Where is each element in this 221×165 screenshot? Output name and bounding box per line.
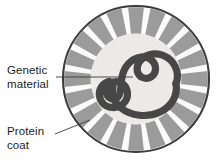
label-protein-coat: Protein coat bbox=[7, 125, 44, 152]
label-genetic-material: Genetic material bbox=[7, 64, 49, 91]
label-genetic-material-line2: material bbox=[7, 78, 49, 92]
label-protein-coat-line1: Protein bbox=[7, 125, 44, 139]
virus-diagram-figure: Genetic material Protein coat bbox=[0, 0, 221, 165]
label-genetic-material-line1: Genetic bbox=[7, 64, 49, 78]
label-protein-coat-line2: coat bbox=[7, 139, 44, 153]
